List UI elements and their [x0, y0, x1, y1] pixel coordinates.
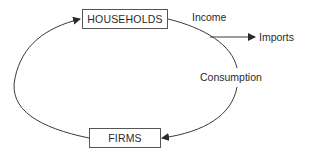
firms-node: FIRMS — [89, 128, 161, 148]
consumption-to-firms-arrow — [162, 87, 237, 138]
income-flow-line — [168, 19, 237, 68]
consumption-label: Consumption — [200, 71, 262, 83]
imports-label: Imports — [259, 31, 294, 43]
firms-to-households-arrow — [14, 19, 89, 138]
households-node: HOUSEHOLDS — [82, 9, 168, 29]
income-label: Income — [192, 11, 226, 23]
